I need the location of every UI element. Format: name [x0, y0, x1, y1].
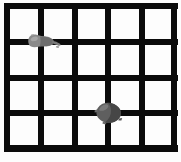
horizontal-line-0 [4, 3, 178, 9]
horizontal-lines [4, 3, 178, 152]
grid-image-scene: Grid with two gray blobs blob-upper-left… [0, 0, 181, 162]
horizontal-line-2 [4, 75, 178, 81]
grid-lines [0, 0, 181, 162]
blob-upper-left-speck-a [56, 46, 60, 48]
horizontal-line-4 [4, 145, 178, 152]
vertical-line-3 [105, 3, 111, 152]
blob-lower-center-speck-a [95, 109, 98, 112]
blob-lower-center [95, 103, 123, 125]
vertical-line-4 [139, 3, 145, 152]
vertical-line-0 [4, 3, 10, 152]
blob-upper-left-shade [40, 36, 54, 46]
vertical-line-1 [38, 3, 44, 152]
horizontal-line-3 [4, 110, 178, 116]
vertical-line-5 [171, 3, 177, 152]
vertical-line-2 [72, 3, 78, 152]
